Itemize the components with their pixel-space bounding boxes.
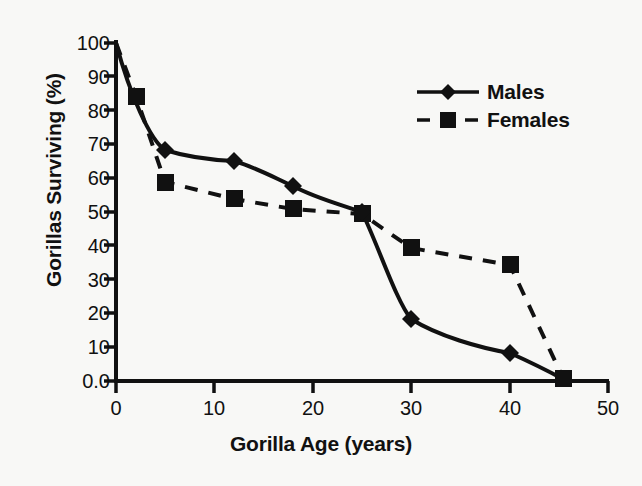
legend-label-males: Males [487, 80, 544, 104]
legend-item-males: Males [415, 78, 570, 106]
x-axis-title: Gorilla Age (years) [0, 432, 642, 456]
x-tick-label: 50 [588, 398, 628, 418]
chart-figure: 100 90 80 70 60 50 40 30 20 10 0.0 0 10 … [0, 0, 642, 486]
x-tick-label-group: 0 10 20 30 40 50 [0, 0, 642, 486]
x-tick-label: 20 [293, 398, 333, 418]
x-tick-label: 40 [490, 398, 530, 418]
y-axis-title: Gorillas Surviving (%) [42, 40, 66, 320]
legend-label-females: Females [487, 108, 570, 132]
legend: Males Females [415, 78, 570, 134]
x-tick-label: 30 [391, 398, 431, 418]
legend-marker-square-icon [415, 109, 481, 131]
x-tick-label: 10 [194, 398, 234, 418]
x-tick-label: 0 [96, 398, 136, 418]
legend-item-females: Females [415, 106, 570, 134]
legend-marker-diamond-icon [415, 81, 481, 103]
